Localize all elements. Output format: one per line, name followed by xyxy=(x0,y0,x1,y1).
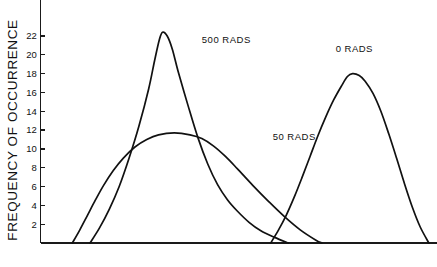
y-tick-label: 8 xyxy=(31,162,36,173)
y-tick-label: 2 xyxy=(31,219,36,230)
y-axis-ticks: 246810121416182022 xyxy=(26,30,45,229)
y-axis-label: FREQUENCY OF OCCURRENCE xyxy=(5,19,20,240)
y-tick-label: 12 xyxy=(26,124,36,135)
y-tick-label: 14 xyxy=(26,106,36,117)
data-curves xyxy=(72,32,429,243)
y-axis-label-text: FREQUENCY OF OCCURRENCE xyxy=(5,19,20,240)
y-tick-label: 20 xyxy=(26,49,36,60)
y-tick-label: 18 xyxy=(26,68,36,79)
y-tick-label: 22 xyxy=(26,30,36,41)
y-tick-label: 16 xyxy=(26,87,36,98)
curve-label-500-rads: 500 RADS xyxy=(202,34,251,45)
curve-500-rads xyxy=(90,32,288,243)
curve-0-rads xyxy=(271,74,429,243)
curve-label-0-rads: 0 RADS xyxy=(336,43,373,54)
y-tick-label: 6 xyxy=(31,181,36,192)
chart-figure: FREQUENCY OF OCCURRENCE 2468101214161820… xyxy=(0,0,437,267)
curve-50-rads xyxy=(72,133,321,243)
curve-label-50-rads: 50 RADS xyxy=(273,131,316,142)
y-tick-label: 4 xyxy=(31,200,36,211)
curve-annotations: 500 RADS50 RADS0 RADS xyxy=(202,34,373,142)
chart-plot-area: FREQUENCY OF OCCURRENCE 2468101214161820… xyxy=(0,0,437,267)
y-tick-label: 10 xyxy=(26,143,36,154)
